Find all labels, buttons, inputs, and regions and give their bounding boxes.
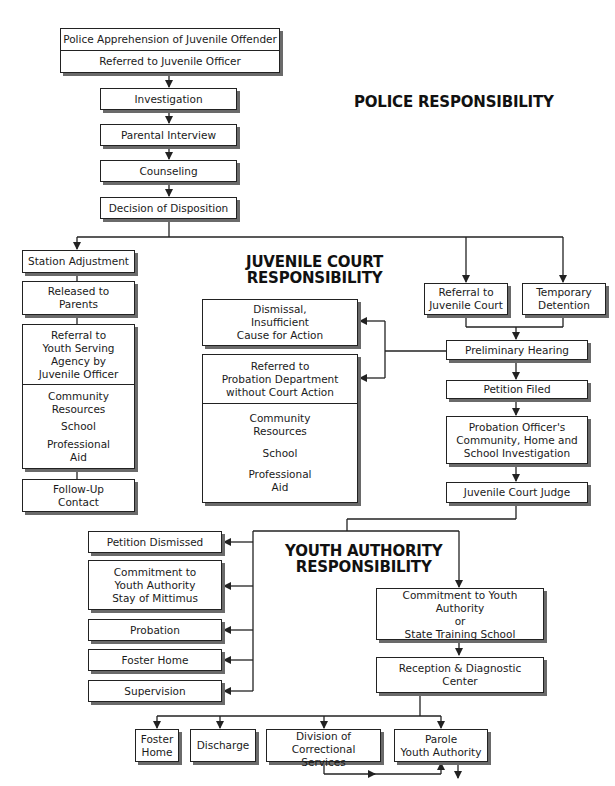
parental-interview-label: Parental Interview xyxy=(101,125,236,145)
follow-up-label: Follow-Up Contact xyxy=(23,480,134,511)
decision-box: Decision of Disposition xyxy=(100,197,237,219)
station-adjustment-box: Station Adjustment xyxy=(22,250,135,273)
resource-item: Professional Aid xyxy=(248,468,311,494)
resource-item: Professional Aid xyxy=(47,438,110,464)
station-adjustment-label: Station Adjustment xyxy=(23,251,134,272)
resource-item: School xyxy=(263,447,298,460)
dismissal-box: Dismissal, Insufficient Cause for Action xyxy=(202,299,358,346)
discharge-box: Discharge xyxy=(190,729,256,762)
reception-label: Reception & Diagnostic Center xyxy=(377,658,543,692)
juvenile-court-responsibility-heading: JUVENILE COURT RESPONSIBILITY xyxy=(246,254,383,286)
probation-label: Probation xyxy=(89,620,221,640)
temporary-detention-label: Temporary Detention xyxy=(523,284,605,314)
petition-dismissed-label: Petition Dismissed xyxy=(89,532,221,552)
decision-label: Decision of Disposition xyxy=(101,198,236,218)
foster-home-outcome-label: Foster Home xyxy=(89,650,221,670)
referred-probation-label: Referred to Probation Department without… xyxy=(203,355,357,403)
judge-box: Juvenile Court Judge xyxy=(446,482,588,503)
resource-item: School xyxy=(61,420,96,433)
referred-probation-box: Referred to Probation Department without… xyxy=(202,354,358,503)
commitment-stay-box: Commitment to Youth Authority Stay of Mi… xyxy=(88,560,222,610)
ya-commitment-box: Commitment to Youth Authority or State T… xyxy=(376,588,544,640)
counseling-label: Counseling xyxy=(101,161,236,181)
parole-label: Parole Youth Authority xyxy=(395,730,487,761)
reception-box: Reception & Diagnostic Center xyxy=(376,657,544,693)
temporary-detention-box: Temporary Detention xyxy=(522,283,606,315)
supervision-label: Supervision xyxy=(89,681,221,701)
correctional-services-label: Division of Correctional Services xyxy=(267,730,380,769)
correctional-services-box: Division of Correctional Services xyxy=(266,729,381,762)
ya-foster-home-box: Foster Home xyxy=(135,729,179,762)
referral-court-label: Referral to Juvenile Court xyxy=(425,284,507,314)
preliminary-hearing-box: Preliminary Hearing xyxy=(446,340,588,360)
parole-box: Parole Youth Authority xyxy=(394,729,488,762)
follow-up-box: Follow-Up Contact xyxy=(22,479,135,512)
station-resources-list: Community Resources School Professional … xyxy=(23,384,134,468)
counseling-box: Counseling xyxy=(100,160,237,182)
discharge-label: Discharge xyxy=(191,730,255,761)
probation-investigation-label: Probation Officer's Community, Home and … xyxy=(447,417,587,463)
apprehension-box: Police Apprehension of Juvenile Offender… xyxy=(60,28,280,73)
youth-authority-responsibility-heading: YOUTH AUTHORITY RESPONSIBILITY xyxy=(285,543,442,575)
dismissal-label: Dismissal, Insufficient Cause for Action xyxy=(203,300,357,345)
police-responsibility-heading: POLICE RESPONSIBILITY xyxy=(354,94,554,110)
parental-interview-box: Parental Interview xyxy=(100,124,237,146)
preliminary-hearing-label: Preliminary Hearing xyxy=(447,341,587,359)
ya-commitment-label: Commitment to Youth Authority or State T… xyxy=(377,589,543,641)
referred-officer-label: Referred to Juvenile Officer xyxy=(61,50,279,72)
petition-dismissed-box: Petition Dismissed xyxy=(88,531,222,553)
judge-label: Juvenile Court Judge xyxy=(447,483,587,502)
investigation-box: Investigation xyxy=(100,88,237,110)
probation-box: Probation xyxy=(88,619,222,641)
apprehension-label: Police Apprehension of Juvenile Offender xyxy=(61,29,279,50)
referral-agency-label: Referral to Youth Serving Agency by Juve… xyxy=(23,325,134,384)
ya-foster-home-label: Foster Home xyxy=(136,730,178,761)
resource-item: Community Resources xyxy=(48,390,109,416)
petition-filed-box: Petition Filed xyxy=(446,380,588,399)
investigation-label: Investigation xyxy=(101,89,236,109)
commitment-stay-label: Commitment to Youth Authority Stay of Mi… xyxy=(89,561,221,609)
referral-court-box: Referral to Juvenile Court xyxy=(424,283,508,315)
petition-filed-label: Petition Filed xyxy=(447,381,587,398)
probation-investigation-box: Probation Officer's Community, Home and … xyxy=(446,416,588,464)
resource-item: Community Resources xyxy=(250,412,311,438)
released-label: Released to Parents xyxy=(23,282,134,314)
supervision-box: Supervision xyxy=(88,680,222,702)
released-box: Released to Parents xyxy=(22,281,135,315)
referral-agency-box: Referral to Youth Serving Agency by Juve… xyxy=(22,324,135,469)
foster-home-outcome-box: Foster Home xyxy=(88,649,222,671)
court-resources-list: Community Resources School Professional … xyxy=(203,403,357,502)
